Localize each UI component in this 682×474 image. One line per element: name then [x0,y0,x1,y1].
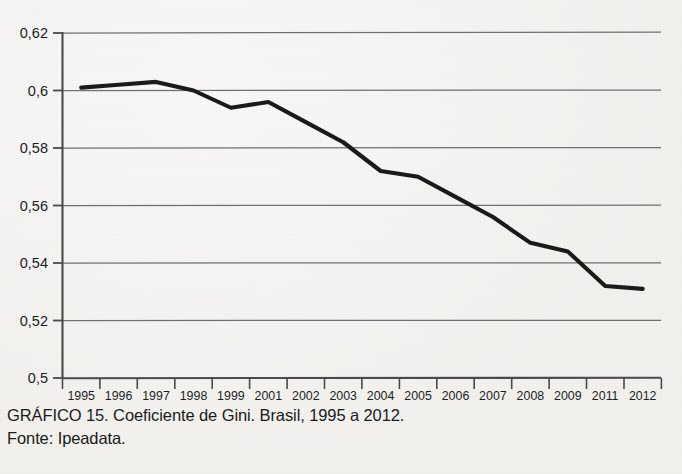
figure-gini-coefficient: 0,62 0,6 0,58 0,56 0,54 0,52 0,5 [0,0,682,474]
gridline-0.60 [62,90,661,91]
y-tick-label-0.60: 0,6 [28,83,48,99]
x-tick-label-2003: 2003 [329,389,357,400]
y-tick-label-0.62: 0,62 [20,25,48,41]
x-axis-ticks [63,378,662,389]
y-axis-tick-labels: 0,62 0,6 0,58 0,56 0,54 0,52 0,5 [20,25,48,386]
x-tick-label-1995: 1995 [67,389,95,400]
data-series-gini [81,82,642,289]
y-axis-ticks [53,33,62,378]
x-tick-label-2012: 2012 [629,389,657,400]
figure-caption-block: GRÁFICO 15. Coeficiente de Gini. Brasil,… [7,404,677,451]
x-axis-tick-labels: 1995 1996 1997 1998 1999 2001 2002 2003 … [67,389,656,400]
figure-source: Fonte: Ipeadata. [7,427,677,450]
x-tick-label-2002: 2002 [292,389,320,400]
x-tick-label-2011: 2011 [592,389,619,400]
figure-caption: GRÁFICO 15. Coeficiente de Gini. Brasil,… [7,404,677,427]
x-tick-label-2008: 2008 [517,389,545,400]
x-tick-label-1997: 1997 [142,389,170,400]
line-chart: 0,62 0,6 0,58 0,56 0,54 0,52 0,5 [0,0,682,400]
y-tick-label-0.56: 0,56 [20,198,48,214]
y-tick-label-0.50: 0,5 [28,370,48,386]
gridline-0.62 [62,32,661,33]
x-tick-label-2009: 2009 [554,389,582,400]
x-tick-label-2005: 2005 [404,389,432,400]
gini-line-path [81,82,642,289]
x-tick-label-2001: 2001 [255,389,283,400]
x-tick-label-1996: 1996 [105,389,133,400]
x-tick-label-1999: 1999 [217,389,245,400]
x-tick-label-2007: 2007 [479,389,507,400]
x-tick-label-2006: 2006 [442,389,470,400]
y-tick-label-0.54: 0,54 [20,255,48,271]
y-tick-label-0.58: 0,58 [20,140,48,156]
y-tick-label-0.52: 0,52 [20,313,48,329]
x-tick-label-2004: 2004 [367,389,395,400]
gridlines [62,32,661,320]
x-tick-label-1998: 1998 [180,389,208,400]
